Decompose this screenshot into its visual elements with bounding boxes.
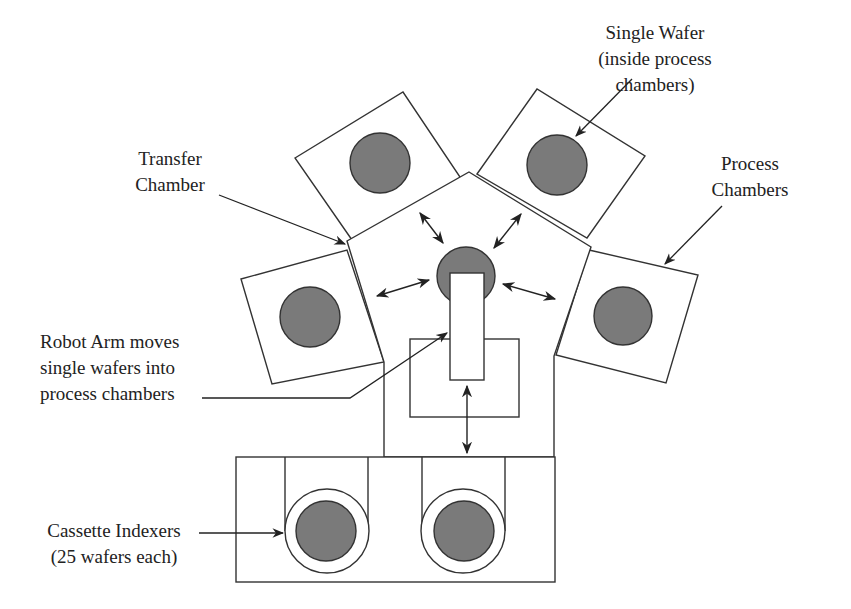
label-line: Single Wafer (555, 20, 755, 46)
wafer-icon (434, 501, 494, 561)
label-cassette-indexers: Cassette Indexers (25 wafers each) (34, 518, 194, 570)
wafer-icon (296, 501, 356, 561)
label-robot-arm: Robot Arm moves single wafers into proce… (40, 329, 200, 407)
label-line: Chambers (690, 177, 810, 203)
label-line: single wafers into (40, 355, 200, 381)
label-line: Transfer (120, 146, 220, 172)
label-line: Process (690, 151, 810, 177)
label-transfer-chamber: Transfer Chamber (120, 146, 220, 198)
label-line: Robot Arm moves (40, 329, 200, 355)
wafer-icon (527, 135, 587, 195)
leader-process-chambers (665, 206, 722, 264)
robot-arm (450, 273, 484, 380)
label-line: (25 wafers each) (34, 544, 194, 570)
label-single-wafer: Single Wafer (inside process chambers) (555, 20, 755, 98)
wafer-icon (280, 287, 340, 347)
label-process-chambers: Process Chambers (690, 151, 810, 203)
cassette-indexer-base (236, 457, 555, 582)
label-line: process chambers (40, 381, 200, 407)
label-line: chambers) (555, 72, 755, 98)
label-line: Chamber (120, 172, 220, 198)
wafer-icon (350, 133, 410, 193)
wafer-icon (594, 287, 652, 345)
label-line: (inside process (555, 46, 755, 72)
label-line: Cassette Indexers (34, 518, 194, 544)
